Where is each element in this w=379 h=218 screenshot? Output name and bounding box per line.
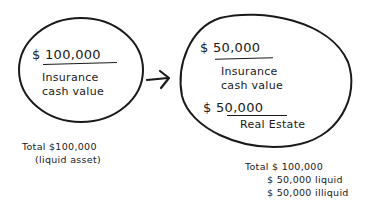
- right-summary-illiquid: $ 50,000 illiquid: [245, 186, 349, 199]
- right-bubble-item2-divider: [227, 115, 287, 116]
- right-bubble-item1-label-line2: cash value: [221, 79, 283, 93]
- right-summary: Total $ 100,000 $ 50,000 liquid $ 50,000…: [245, 160, 349, 199]
- left-summary-note: (liquid asset): [22, 153, 101, 166]
- right-bubble-item2-label: Real Estate: [240, 118, 305, 132]
- left-summary-total: Total $100,000: [22, 140, 101, 153]
- right-bubble-item2-amount: $ 50,000: [203, 100, 263, 115]
- right-summary-total: Total $ 100,000: [245, 160, 349, 173]
- left-bubble-label-line2: cash value: [42, 85, 104, 99]
- right-summary-liquid: $ 50,000 liquid: [245, 173, 349, 186]
- left-bubble-amount-text: $ 100,000: [32, 47, 101, 62]
- right-bubble-item1-label-line1: Insurance: [221, 65, 283, 79]
- right-bubble-item2-label-text: Real Estate: [240, 118, 305, 131]
- right-arrow-icon: [147, 71, 169, 88]
- diagram-canvas: $ 100,000 Insurance cash value $ 50,000 …: [0, 0, 379, 218]
- right-bubble-item1-amount: $ 50,000: [200, 40, 260, 55]
- left-bubble-label-line1: Insurance: [42, 71, 104, 85]
- left-summary: Total $100,000 (liquid asset): [22, 140, 101, 166]
- right-bubble-item1-amount-text: $ 50,000: [200, 40, 260, 55]
- left-bubble-outline: [19, 18, 143, 122]
- left-bubble-label: Insurance cash value: [42, 71, 104, 99]
- right-bubble-item2-amount-text: $ 50,000: [203, 100, 263, 115]
- left-bubble-amount: $ 100,000: [32, 47, 101, 62]
- right-bubble-item1-label: Insurance cash value: [221, 65, 283, 93]
